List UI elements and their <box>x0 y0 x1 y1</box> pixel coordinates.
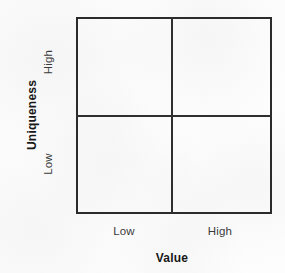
x-axis-tick-high: High <box>194 225 246 237</box>
y-axis-tick-high: High <box>42 41 54 83</box>
x-axis-title: Value <box>142 251 202 265</box>
y-axis-tick-low: Low <box>42 145 54 183</box>
y-axis-title: Uniqueness <box>25 77 39 153</box>
matrix-figure: Uniqueness High Low Low High Value <box>0 0 285 273</box>
quadrant-low-uniqueness-low-value[interactable] <box>78 117 171 212</box>
quadrant-high-uniqueness-high-value[interactable] <box>173 19 270 115</box>
x-axis-tick-low: Low <box>98 225 150 237</box>
quadrant-low-uniqueness-high-value[interactable] <box>173 117 270 212</box>
quadrant-high-uniqueness-low-value[interactable] <box>78 19 171 115</box>
